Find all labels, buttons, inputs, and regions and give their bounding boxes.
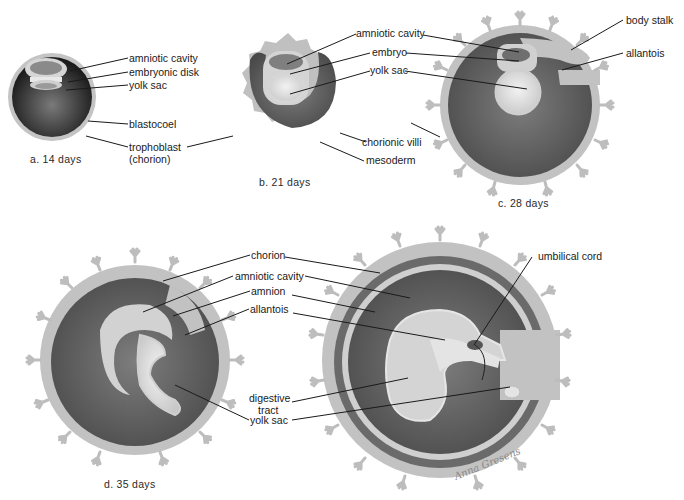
label-c-allantois: allantois bbox=[626, 48, 665, 59]
label-b-yolk-sac: yolk sac bbox=[370, 65, 408, 76]
label-a-chorion-paren: (chorion) bbox=[129, 154, 170, 165]
label-d-digestive: digestive bbox=[249, 393, 290, 404]
caption-d: d. 35 days bbox=[104, 478, 155, 490]
label-b-amniotic-cavity: amniotic cavity bbox=[356, 28, 425, 39]
caption-b: b. 21 days bbox=[259, 176, 310, 188]
label-e-umbilical-cord: umbilical cord bbox=[538, 251, 602, 262]
label-a-embryonic-disk: embryonic disk bbox=[129, 67, 199, 78]
label-d-allantois: allantois bbox=[250, 304, 289, 315]
label-a-trophoblast: trophoblast bbox=[129, 142, 181, 153]
label-a-yolk-sac: yolk sac bbox=[129, 80, 167, 91]
panel-a-illustration bbox=[8, 53, 96, 141]
label-c-body-stalk: body stalk bbox=[626, 15, 673, 26]
label-d-amniotic-cavity: amniotic cavity bbox=[235, 271, 304, 282]
panel-c-illustration bbox=[427, 12, 613, 196]
embryo-development-diagram: amniotic cavity embryonic disk yolk sac … bbox=[0, 0, 684, 500]
label-d-amnion: amnion bbox=[251, 286, 285, 297]
label-a-amniotic-cavity: amniotic cavity bbox=[129, 53, 198, 64]
panel-e-illustration bbox=[310, 227, 571, 490]
label-b-mesoderm: mesoderm bbox=[366, 155, 416, 166]
caption-a: a. 14 days bbox=[30, 153, 81, 165]
label-a-blastocoel: blastocoel bbox=[129, 119, 176, 130]
panel-b-illustration bbox=[242, 33, 336, 128]
label-d-yolk-sac: yolk sac bbox=[250, 415, 288, 426]
caption-c: c. 28 days bbox=[498, 197, 549, 209]
panel-d-illustration bbox=[27, 249, 243, 466]
label-b-embryo: embryo bbox=[372, 47, 407, 58]
label-d-chorion: chorion bbox=[251, 250, 285, 261]
label-b-chorionic-villi: chorionic villi bbox=[362, 137, 422, 148]
